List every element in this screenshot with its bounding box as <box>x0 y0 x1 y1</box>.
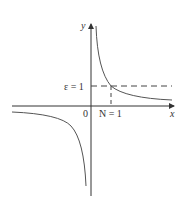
x-axis-label: x <box>169 108 175 119</box>
n-label: N = 1 <box>99 108 122 119</box>
curve-left-branch <box>12 112 86 186</box>
epsilon-label: ε = 1 <box>64 81 84 92</box>
curve-right-branch <box>96 26 172 100</box>
y-axis-label: y <box>80 20 86 31</box>
hyperbola-diagram: y x 0 ε = 1 N = 1 <box>0 0 187 202</box>
origin-label: 0 <box>83 108 88 119</box>
